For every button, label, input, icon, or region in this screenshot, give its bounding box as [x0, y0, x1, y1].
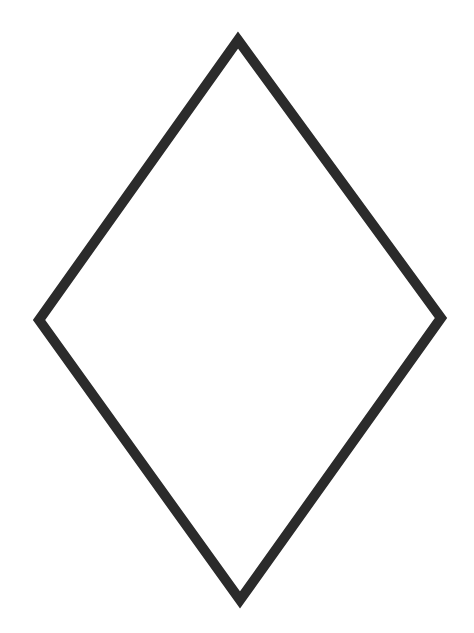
rhombus-figure: [0, 0, 474, 633]
diagram-canvas: [0, 0, 474, 633]
rhombus-outline: [39, 40, 441, 600]
